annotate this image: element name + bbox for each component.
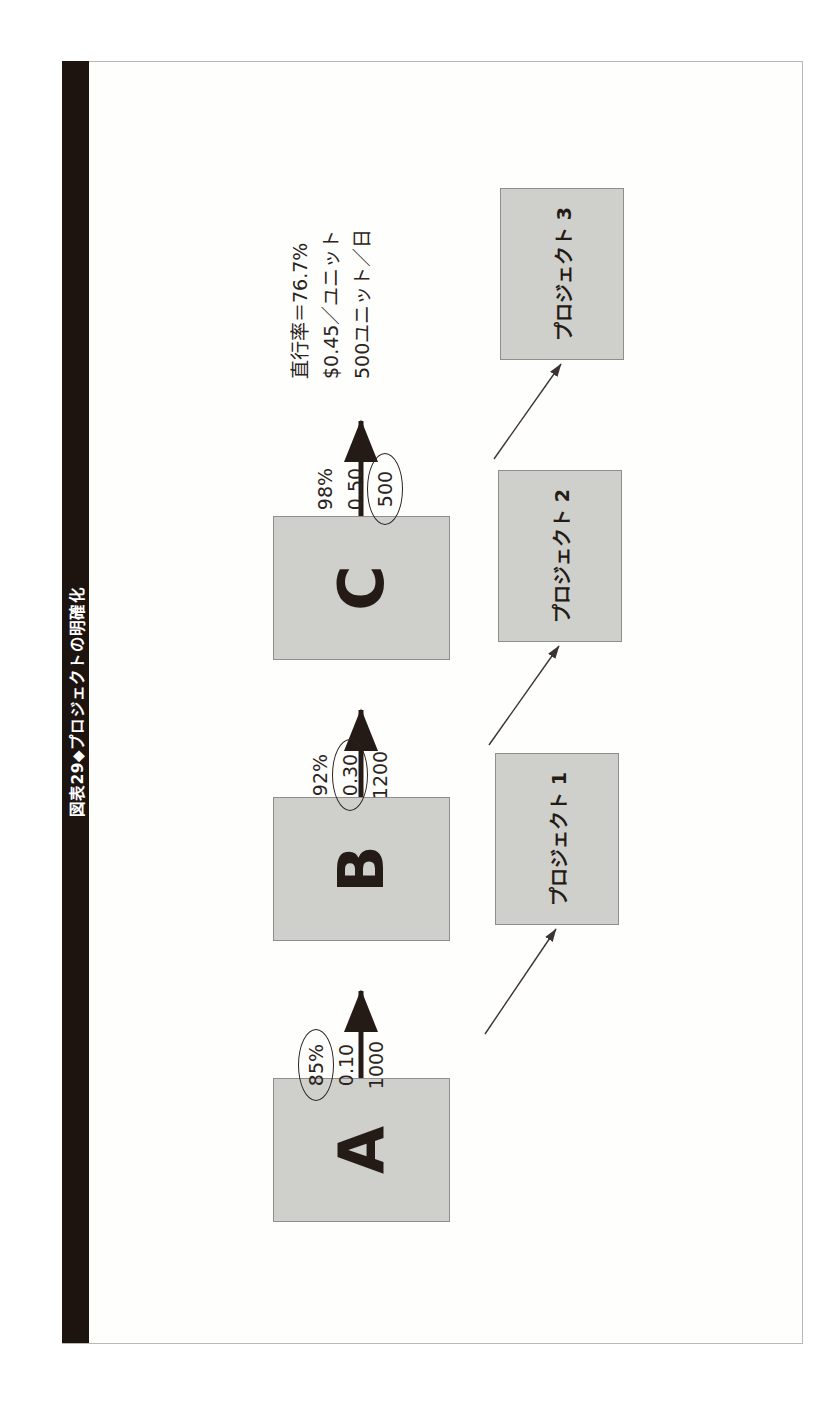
metric-a-capacity: 1000 <box>361 1019 391 1111</box>
leader-arrow-project-2 <box>489 646 559 745</box>
project-box-1-label: プロジェクト 1 <box>544 772 571 906</box>
metric-c-scrap: 0.50 <box>340 443 370 535</box>
metric-stack-c: 98% 0.50 500 <box>310 443 400 535</box>
metric-a-yield: 85% <box>301 1019 331 1111</box>
figure-title: 図表29◆プロジェクトの明確化 <box>65 587 87 817</box>
leader-arrow-project-1 <box>485 929 556 1034</box>
process-box-a-label: A <box>331 1126 393 1174</box>
process-box-b-label: B <box>331 845 393 892</box>
process-box-c[interactable]: C <box>273 516 450 660</box>
diagram-canvas: 直行率 廃棄 能力 A 85% 0.10 1000 プロジェクト 1 <box>89 62 802 1343</box>
project-box-3[interactable]: プロジェクト 3 <box>500 188 624 360</box>
metric-b-capacity: 1200 <box>365 729 395 821</box>
diagram-canvas-wrap: 直行率 廃棄 能力 A 85% 0.10 1000 プロジェクト 1 <box>89 62 802 1343</box>
leader-arrow-project-3 <box>494 364 561 459</box>
metric-b-yield: 92% <box>305 729 335 821</box>
project-box-2-label: プロジェクト 2 <box>547 489 574 623</box>
metric-stack-b: 92% 0.30 1200 <box>305 729 395 821</box>
summary-block: 直行率＝76.7% $0.45／ユニット 500ユニット／日 <box>285 229 378 379</box>
project-box-2[interactable]: プロジェクト 2 <box>498 470 622 642</box>
project-box-1[interactable]: プロジェクト 1 <box>495 753 619 925</box>
figure-title-bar: 図表29◆プロジェクトの明確化 <box>62 61 89 1343</box>
metric-b-scrap: 0.30 <box>335 729 365 821</box>
metric-c-capacity: 500 <box>370 443 400 535</box>
summary-line-capacity: 500ユニット／日 <box>347 229 378 379</box>
metric-stack-a: 85% 0.10 1000 <box>301 1019 391 1111</box>
process-box-c-label: C <box>331 565 393 611</box>
metric-c-yield: 98% <box>310 443 340 535</box>
project-box-3-label: プロジェクト 3 <box>549 207 576 341</box>
summary-line-cost: $0.45／ユニット <box>316 229 347 379</box>
figure-page: 図表29◆プロジェクトの明確化 <box>0 0 835 1401</box>
metric-a-scrap: 0.10 <box>331 1019 361 1111</box>
summary-line-yield: 直行率＝76.7% <box>285 229 316 379</box>
